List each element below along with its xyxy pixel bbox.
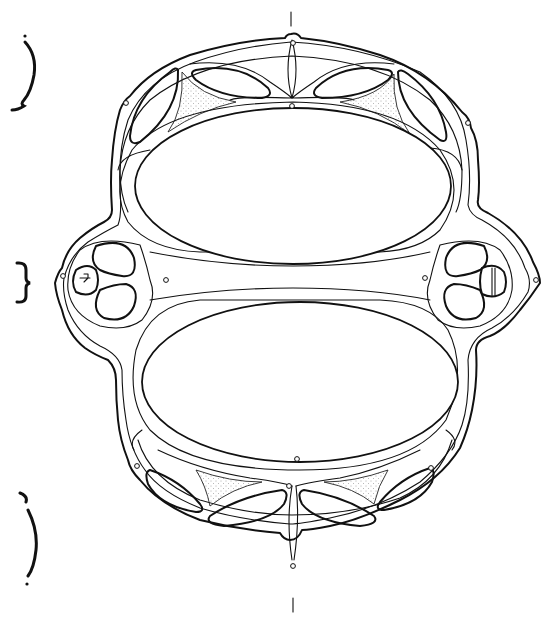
rivet-hole <box>291 564 296 569</box>
rivet-hole <box>287 484 292 489</box>
right-lower-kidney-window <box>444 284 484 320</box>
rivet-hole <box>534 278 539 283</box>
left-upper-kidney-window <box>93 243 135 276</box>
rivet-hole <box>423 276 428 281</box>
upper-main-hole <box>135 108 451 264</box>
top-central-rib <box>288 40 296 98</box>
rivet-hole <box>290 104 295 109</box>
section-braces <box>12 34 36 585</box>
lower-right-stippled-field <box>324 470 388 504</box>
lower-main-hole <box>142 302 458 462</box>
bottom-central-rib <box>289 486 298 560</box>
upper-left-side-window <box>130 68 178 143</box>
right-terminal-window <box>480 266 506 297</box>
rivet-hole <box>124 101 129 106</box>
left-lobe <box>68 241 153 328</box>
lower-section-brace <box>20 493 36 586</box>
rivet-hole <box>61 274 66 279</box>
left-lower-kidney-window <box>96 284 136 320</box>
right-lobe <box>427 241 512 328</box>
left-hinge-pin <box>80 274 90 282</box>
rivet-hole <box>135 464 140 469</box>
lower-main-opening <box>133 300 458 470</box>
drawing-canvas <box>0 0 549 627</box>
lower-right-side-window <box>378 468 434 510</box>
rivet-hole <box>466 121 471 126</box>
rivet-hole <box>295 457 300 462</box>
middle-section-brace <box>17 263 30 302</box>
buckle-drawing <box>0 0 549 627</box>
upper-section-brace <box>12 34 35 110</box>
rivet-hole <box>164 278 169 283</box>
rivet-hole <box>291 41 296 46</box>
lower-left-stippled-field <box>196 470 262 506</box>
rivet-hole <box>429 466 434 471</box>
